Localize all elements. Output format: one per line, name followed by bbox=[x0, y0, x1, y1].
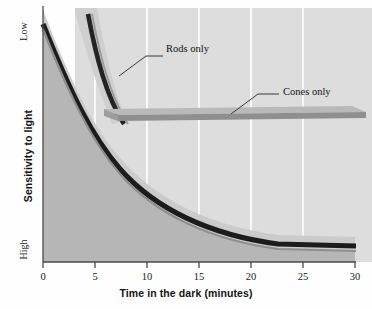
x-tick-label-25: 25 bbox=[290, 271, 316, 282]
x-axis-ticks bbox=[43, 262, 355, 268]
dark-adaptation-chart: Low High Sensitivity to light Time in th… bbox=[0, 0, 372, 309]
x-tick-label-30: 30 bbox=[342, 271, 368, 282]
y-axis-low-label: Low bbox=[18, 15, 29, 49]
x-tick-label-10: 10 bbox=[134, 271, 160, 282]
rods-only-label: Rods only bbox=[166, 43, 209, 54]
x-tick-label-0: 0 bbox=[30, 271, 56, 282]
y-axis-title: Sensitivity to light bbox=[22, 86, 34, 226]
x-axis-title: Time in the dark (minutes) bbox=[0, 287, 372, 299]
x-tick-label-15: 15 bbox=[186, 271, 212, 282]
x-tick-label-20: 20 bbox=[238, 271, 264, 282]
cones-only-label: Cones only bbox=[283, 86, 331, 97]
x-tick-label-5: 5 bbox=[82, 271, 108, 282]
y-axis-high-label: High bbox=[18, 231, 29, 269]
